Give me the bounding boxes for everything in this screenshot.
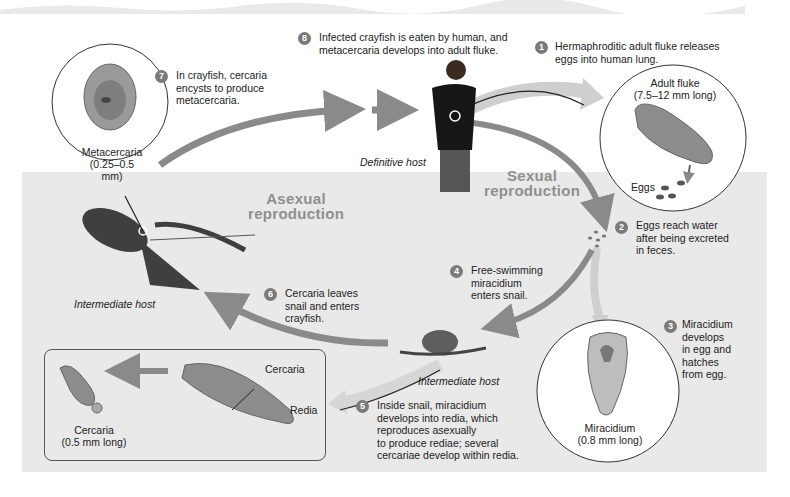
step-6-badge: 6: [264, 288, 277, 301]
adult-fluke-label: Adult fluke (7.5–12 mm long): [633, 77, 717, 101]
step-1-badge: 1: [535, 41, 548, 54]
definitive-host-label: Definitive host: [360, 156, 426, 168]
step-3-text: Miracidiumdevelopsin egg andhatchesfrom …: [682, 318, 733, 381]
snail-intermediate-host-label: Intermediate host: [418, 375, 499, 387]
step-4-badge: 4: [450, 265, 463, 278]
miracidium-label: Miracidium (0.8 mm long): [574, 422, 646, 446]
human-figure: [432, 60, 476, 192]
step-5-text: Inside snail, miracidiumdevelops into re…: [377, 399, 519, 462]
step-8-text: Infected crayfish is eaten by human, and…: [319, 31, 508, 56]
metacercaria-label: Metacercaria (0.25–0.5 mm): [78, 146, 146, 182]
step-5-badge: 5: [356, 400, 369, 413]
arrow-eggs-to-miracidium: [594, 248, 600, 318]
step-8-badge: 8: [298, 32, 311, 45]
lung-fluke-life-cycle-diagram: Asexual reproduction Sexual reproduction…: [0, 0, 790, 497]
step-2-text: Eggs reach waterafter being excretedin f…: [636, 219, 729, 257]
step-7-badge: 7: [155, 70, 168, 83]
eggs-label: Eggs: [631, 181, 655, 193]
eggs-in-water: [588, 230, 606, 247]
step-7-text: In crayfish, cercariaencysts to producem…: [176, 69, 267, 107]
asexual-reproduction-label: Asexual reproduction: [248, 191, 344, 221]
step-6-text: Cercaria leavessnail and enterscrayfish.: [285, 287, 359, 325]
redia-cercaria-inset-box: [44, 349, 326, 461]
crayfish-illustration: [76, 199, 255, 290]
snail-illustration: [400, 330, 486, 354]
crayfish-intermediate-host-label: Intermediate host: [74, 298, 155, 310]
step-2-badge: 2: [615, 221, 628, 234]
sexual-reproduction-label: Sexual reproduction: [484, 168, 580, 198]
step-3-badge: 3: [664, 320, 677, 333]
step-4-text: Free-swimmingmiracidiumenters snail.: [471, 264, 543, 302]
arrow-crayfish-to-human: [160, 110, 345, 165]
step-1-text: Hermaphroditic adult fluke releaseseggs …: [555, 40, 720, 65]
